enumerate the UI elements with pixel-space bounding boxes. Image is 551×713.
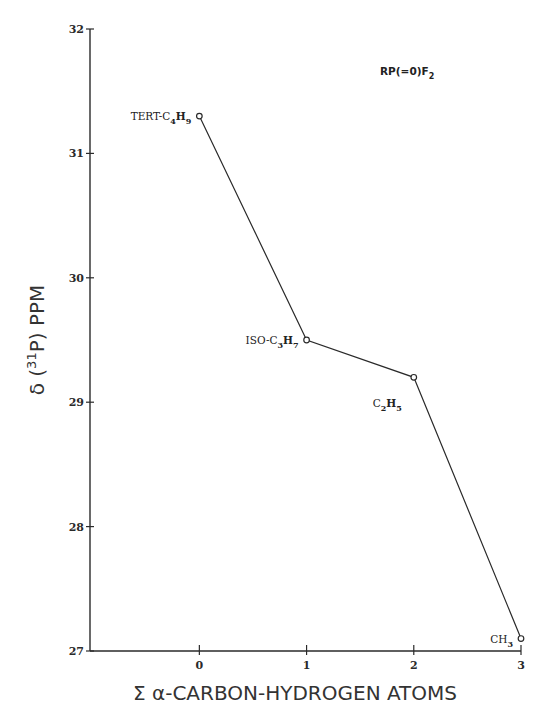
data-point-label: ISO-C3H7 (246, 334, 299, 350)
x-axis-title: Σ α-CARBON-HYDROGEN ATOMS (133, 681, 457, 705)
x-tick-label: 1 (303, 659, 311, 672)
data-point-marker (197, 113, 203, 119)
x-tick: 1 (303, 645, 311, 672)
data-point-marker (411, 375, 417, 381)
y-tick-label: 27 (69, 645, 84, 658)
y-tick-label: 30 (69, 272, 85, 285)
y-tick-label: 29 (69, 396, 84, 409)
compound-annotation: RP(=0)F2 (380, 65, 434, 81)
data-point-label: CH3 (490, 633, 513, 649)
series-line (199, 116, 521, 638)
x-tick: 3 (517, 645, 525, 672)
x-tick-label: 2 (410, 659, 418, 672)
x-tick-label: 0 (196, 659, 204, 672)
data-point-label: C2H5 (373, 397, 402, 413)
chart-svg: 272829303132 0123 TERT-C4H9ISO-C3H7C2H5C… (0, 0, 551, 713)
data-markers (197, 113, 524, 641)
data-point-marker (518, 636, 524, 642)
data-point-label: TERT-C4H9 (131, 110, 192, 126)
y-tick-label: 31 (69, 147, 84, 160)
y-tick-label: 28 (69, 521, 85, 534)
y-axis-title: δ (31P) PPM (24, 285, 49, 396)
chart: 272829303132 0123 TERT-C4H9ISO-C3H7C2H5C… (0, 0, 551, 713)
x-tick-label: 3 (517, 659, 525, 672)
point-labels: TERT-C4H9ISO-C3H7C2H5CH3 (131, 110, 514, 648)
data-point-marker (304, 337, 310, 343)
x-tick: 0 (196, 645, 204, 672)
y-tick-label: 32 (69, 23, 84, 36)
x-tick: 2 (410, 645, 418, 672)
x-ticks: 0123 (196, 645, 525, 672)
